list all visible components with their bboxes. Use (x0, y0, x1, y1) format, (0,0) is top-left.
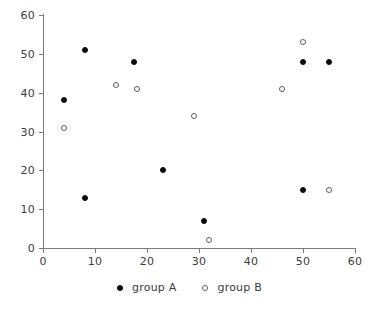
x-tick-mark (251, 249, 252, 253)
y-tick-label: 60 (11, 9, 35, 22)
data-point-group-b (279, 86, 285, 92)
data-point-group-a (326, 59, 332, 65)
data-point-group-b (61, 125, 67, 131)
plot-area (43, 15, 355, 248)
data-point-group-a (300, 187, 306, 193)
y-tick-label: 40 (11, 86, 35, 99)
legend-entry: group A (117, 281, 176, 294)
x-tick-mark (355, 249, 356, 253)
data-point-group-b (113, 82, 119, 88)
data-point-group-b (134, 86, 140, 92)
x-tick-label: 60 (342, 255, 368, 268)
data-point-group-b (326, 187, 332, 193)
x-tick-label: 50 (290, 255, 316, 268)
x-tick-label: 30 (186, 255, 212, 268)
y-tick-label: 50 (11, 47, 35, 60)
x-tick-mark (199, 249, 200, 253)
legend-label: group B (217, 281, 261, 294)
scatter-plot-figure: 0102030405060 0102030405060 group Agroup… (0, 0, 379, 313)
x-tick-label: 0 (30, 255, 56, 268)
y-tick-label: 0 (11, 242, 35, 255)
x-tick-mark (43, 249, 44, 253)
y-tick-label: 10 (11, 203, 35, 216)
x-tick-label: 40 (238, 255, 264, 268)
x-tick-label: 10 (82, 255, 108, 268)
data-point-group-a (201, 218, 207, 224)
data-point-group-b (206, 237, 212, 243)
data-point-group-a (82, 195, 88, 201)
data-point-group-a (82, 47, 88, 53)
filled-circle-icon (117, 285, 123, 291)
legend-label: group A (132, 281, 176, 294)
x-tick-label: 20 (134, 255, 160, 268)
x-tick-mark (303, 249, 304, 253)
x-tick-mark (95, 249, 96, 253)
chart-legend: group Agroup B (0, 281, 379, 294)
legend-entry: group B (202, 281, 261, 294)
x-tick-mark (147, 249, 148, 253)
data-point-group-a (160, 167, 166, 173)
data-point-group-a (61, 97, 67, 103)
y-tick-label: 30 (11, 125, 35, 138)
data-point-group-a (131, 59, 137, 65)
y-tick-label: 20 (11, 164, 35, 177)
data-point-group-a (300, 59, 306, 65)
data-point-group-b (300, 39, 306, 45)
data-point-group-b (191, 113, 197, 119)
open-circle-icon (202, 285, 208, 291)
